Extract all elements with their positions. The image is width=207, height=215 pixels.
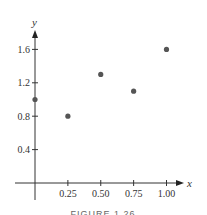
y-axis-label: y: [31, 16, 37, 28]
figure-caption: FIGURE 1.26: [70, 209, 135, 215]
x-tick-label: 0.25: [59, 188, 77, 199]
data-points: [32, 47, 169, 119]
y-tick-label: 0.8: [18, 111, 31, 122]
x-tick-label: 1.00: [158, 188, 176, 199]
data-point: [32, 97, 37, 102]
y-tick-label: 1.2: [18, 77, 31, 88]
x-tick-label: 0.50: [92, 188, 110, 199]
y-axis-arrow-icon: [32, 30, 38, 38]
data-point: [98, 72, 103, 77]
y-tick-label: 1.6: [18, 44, 31, 55]
data-point: [131, 89, 136, 94]
x-axis-arrow-icon: [176, 180, 184, 186]
y-tick-label: 0.4: [18, 144, 31, 155]
data-point: [164, 47, 169, 52]
x-tick-label: 0.75: [125, 188, 143, 199]
axes: x y: [15, 16, 192, 200]
scatter-chart: x y 0.250.500.751.00 0.40.81.21.6 FIGURE…: [0, 0, 207, 215]
data-point: [65, 114, 70, 119]
x-axis-label: x: [186, 177, 192, 189]
